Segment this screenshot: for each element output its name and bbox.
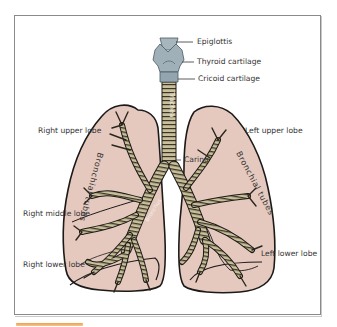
- trachea-label: Trachea: [168, 91, 176, 117]
- accent-bar: [16, 323, 83, 326]
- label-right-middle-lobe: Right middle lobe: [23, 210, 90, 218]
- lungs-illustration: Trachea Bronchial tubes Bronchial tubes …: [0, 0, 337, 327]
- label-right-lower-lobe: Right lower lobe: [23, 261, 85, 269]
- label-thyroid-cartilage: Thyroid cartilage: [197, 58, 261, 66]
- label-cricoid-cartilage: Cricoid cartilage: [198, 75, 260, 83]
- label-carina: Carina: [184, 156, 209, 164]
- label-right-upper-lobe: Right upper lobe: [38, 127, 101, 135]
- cricoid-cartilage-shape: [160, 72, 178, 82]
- larynx: [153, 38, 184, 82]
- label-left-upper-lobe: Left upper lobe: [245, 127, 303, 135]
- label-left-lower-lobe: Left lower lobe: [261, 250, 317, 258]
- label-epiglottis: Epiglottis: [197, 38, 232, 46]
